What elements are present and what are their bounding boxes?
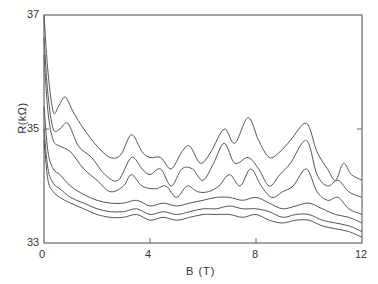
- y-axis-label: R(kΩ): [16, 102, 28, 134]
- data-series: [44, 15, 362, 237]
- series-line-curve-6: [44, 140, 362, 237]
- y-tick-label-35: 35: [27, 122, 39, 134]
- y-tick-label-33: 33: [27, 236, 39, 248]
- x-tick-label-0: 0: [39, 248, 45, 260]
- series-line-curve-1: [44, 15, 362, 180]
- plot-area: [0, 0, 378, 284]
- series-line-curve-2: [44, 38, 362, 198]
- x-tick-label-12: 12: [355, 248, 367, 260]
- y-tick-label-37: 37: [27, 8, 39, 20]
- series-line-curve-3: [44, 55, 362, 215]
- x-axis-label: B (T): [186, 265, 215, 277]
- x-tick-label-4: 4: [145, 248, 151, 260]
- x-tick-label-8: 8: [252, 248, 258, 260]
